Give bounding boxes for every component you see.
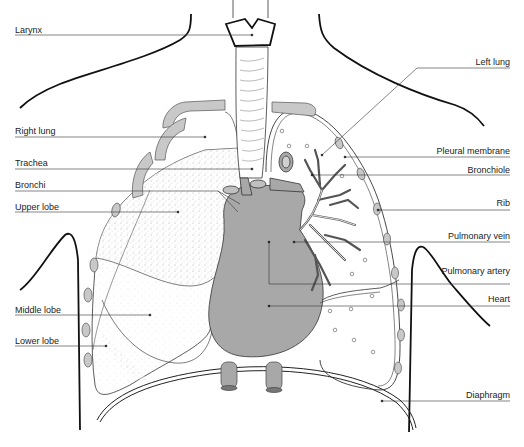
label-left-lung: Left lung [475,57,510,67]
label-right-lung: Right lung [15,126,56,136]
label-middle-lobe: Middle lobe [15,305,61,315]
trachea [236,47,268,178]
respiratory-diagram [0,0,524,447]
label-pulmonary-artery: Pulmonary artery [441,266,510,276]
label-trachea: Trachea [15,158,48,168]
label-larynx: Larynx [15,25,42,35]
label-rib: Rib [496,198,510,208]
label-bronchiole: Bronchiole [467,165,510,175]
label-diaphragm: Diaphragm [466,390,510,400]
label-bronchi: Bronchi [15,180,46,190]
larynx [226,0,275,46]
label-upper-lobe: Upper lobe [15,202,59,212]
label-heart: Heart [488,294,510,304]
label-lower-lobe: Lower lobe [15,336,59,346]
label-pleural-membrane: Pleural membrane [436,146,510,156]
label-pulmonary-vein: Pulmonary vein [448,231,510,241]
